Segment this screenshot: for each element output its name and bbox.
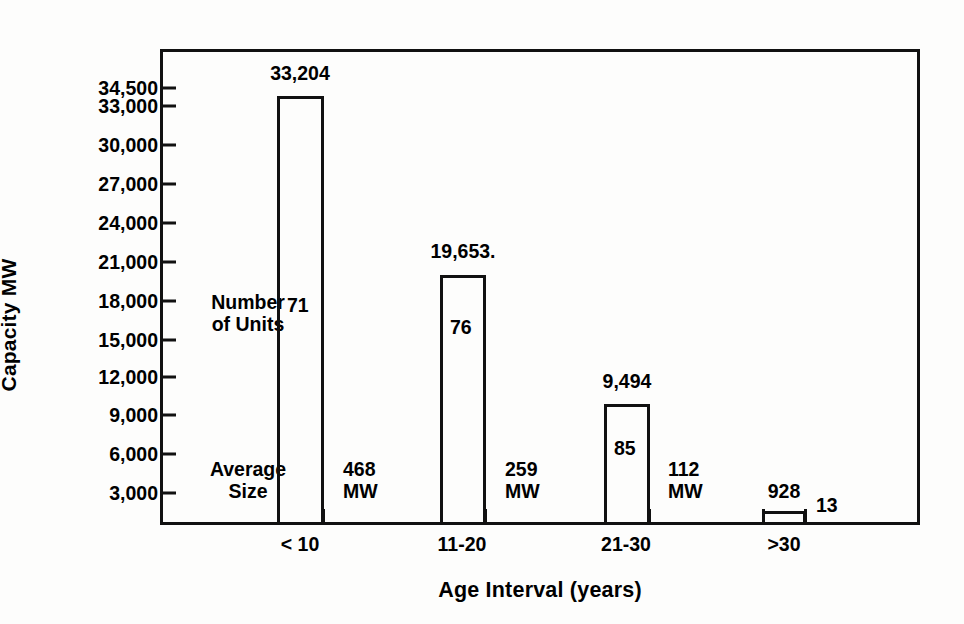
- bar-avgsize-value-11-20: 259: [505, 458, 538, 480]
- bar-avgsize-value-under-10: 468: [343, 458, 376, 480]
- bar-avgsize-label-under-10: 468 MW: [343, 459, 378, 503]
- bar-value-label-21-30: 9,494: [547, 370, 707, 393]
- bar-age-over-30[interactable]: [762, 511, 806, 525]
- y-tick-label-9000: 9,000: [46, 404, 158, 427]
- y-tick-label-18000: 18,000: [46, 290, 158, 313]
- bar-avgsize-unit-under-10: MW: [343, 480, 378, 502]
- bar-age-11-20[interactable]: [440, 275, 486, 525]
- x-tick-mark-21-30-right: [648, 509, 651, 525]
- x-tick-mark-11-20-left: [440, 509, 443, 525]
- y-tick-label-3000: 3,000: [46, 482, 158, 505]
- bar-units-label-under-10: 71: [287, 294, 309, 317]
- bar-units-label-over-30: 13: [816, 495, 838, 517]
- y-tick-label-33000: 33,000: [46, 95, 158, 118]
- y-tick-label-15000: 15,000: [46, 329, 158, 352]
- row-annotation-number-of-units-line2: of Units: [212, 313, 285, 335]
- bar-avgsize-label-11-20: 259 MW: [505, 459, 540, 503]
- bar-value-label-over-30: 928: [704, 480, 864, 503]
- bar-avgsize-unit-21-30: MW: [668, 480, 703, 502]
- bar-units-label-21-30: 85: [614, 437, 636, 460]
- x-tick-label-over-30: >30: [714, 533, 854, 556]
- bar-avgsize-unit-11-20: MW: [505, 480, 540, 502]
- x-tick-mark-21-30-left: [604, 509, 607, 525]
- y-tick-label-6000: 6,000: [46, 443, 158, 466]
- y-tick-label-12000: 12,000: [46, 366, 158, 389]
- y-axis-ticks: 34,500 33,000 30,000 27,000 24,000 21,00…: [0, 0, 158, 624]
- bar-value-label-under-10: 33,204: [220, 62, 380, 85]
- bar-value-label-11-20: 19,653.: [383, 240, 543, 263]
- bar-units-label-11-20: 76: [450, 316, 472, 339]
- x-tick-mark-over-30-left: [762, 509, 765, 525]
- x-tick-mark-under-10-right: [322, 509, 325, 525]
- x-tick-label-under-10: < 10: [230, 533, 370, 556]
- row-annotation-average-size-line1: Average: [210, 458, 286, 480]
- plot-area-frame: [160, 49, 920, 525]
- x-tick-label-11-20: 11-20: [392, 533, 532, 556]
- y-tick-label-24000: 24,000: [46, 212, 158, 235]
- x-tick-mark-11-20-right: [484, 509, 487, 525]
- y-tick-label-27000: 27,000: [46, 173, 158, 196]
- y-tick-label-21000: 21,000: [46, 251, 158, 274]
- bar-avgsize-label-21-30: 112 MW: [668, 459, 703, 503]
- bar-avgsize-value-21-30: 112: [668, 458, 699, 480]
- chart-figure: Capacity MW 34,500 33,000 30,000 27,000 …: [0, 0, 964, 624]
- y-tick-label-30000: 30,000: [46, 134, 158, 157]
- bar-age-21-30[interactable]: [604, 404, 650, 525]
- x-tick-mark-under-10-left: [277, 509, 280, 525]
- x-tick-label-21-30: 21-30: [556, 533, 696, 556]
- x-axis-title: Age Interval (years): [160, 578, 920, 603]
- row-annotation-average-size-line2: Size: [228, 480, 267, 502]
- x-tick-mark-over-30-right: [804, 509, 807, 525]
- row-annotation-number-of-units-line1: Number: [211, 291, 285, 313]
